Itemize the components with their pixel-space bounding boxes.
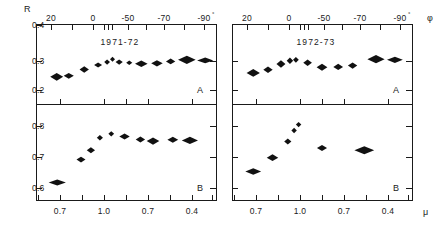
data-point-marker xyxy=(276,60,285,68)
data-point-marker xyxy=(64,73,74,79)
frame-left xyxy=(36,24,216,200)
data-point-marker xyxy=(303,60,312,66)
ticks-top-right xyxy=(247,24,400,30)
data-point-marker xyxy=(333,64,343,70)
data-point-marker xyxy=(104,60,110,65)
data-point-marker xyxy=(317,145,327,151)
data-point-marker xyxy=(136,136,145,142)
data-point-marker xyxy=(263,67,272,73)
data-point-marker xyxy=(126,60,132,64)
ticks-divider-right xyxy=(256,99,388,104)
data-point-marker xyxy=(119,133,129,139)
data-point-marker xyxy=(80,66,89,72)
frame-right xyxy=(232,24,412,200)
data-point-marker xyxy=(147,137,160,144)
data-markers-1972-73-A xyxy=(247,55,403,77)
data-markers-1972-73-B xyxy=(245,122,374,175)
data-point-marker xyxy=(166,59,175,65)
data-point-marker xyxy=(267,154,279,161)
data-point-marker xyxy=(287,58,293,64)
data-markers-1971-72-B xyxy=(49,131,198,185)
data-point-marker xyxy=(182,137,198,144)
data-point-marker xyxy=(284,138,291,144)
figure-container: R φ μ 20 0 -50 -70 -90 ° 20 0 -50 -70 -9… xyxy=(0,0,436,229)
data-point-marker xyxy=(387,57,403,63)
plot-canvas xyxy=(0,0,436,229)
ticks-y-left-column-right-spine xyxy=(210,61,216,188)
data-point-marker xyxy=(247,69,260,77)
data-point-marker xyxy=(108,131,114,136)
ticks-divider-left xyxy=(60,99,192,104)
data-point-marker xyxy=(367,55,384,63)
data-point-marker xyxy=(167,137,178,143)
data-point-marker xyxy=(291,128,296,133)
data-point-marker xyxy=(135,60,148,66)
ticks-top-left xyxy=(51,24,204,30)
data-point-marker xyxy=(245,168,261,175)
data-point-marker xyxy=(110,57,115,62)
data-point-marker xyxy=(296,122,301,127)
ticks-y-left-column xyxy=(36,25,42,188)
ticks-bottom-left xyxy=(38,195,212,200)
data-markers-1971-72-A xyxy=(50,56,213,81)
ticks-bottom-right xyxy=(234,195,408,200)
data-point-marker xyxy=(197,58,213,64)
data-point-marker xyxy=(178,56,196,64)
data-point-marker xyxy=(87,147,95,153)
data-point-marker xyxy=(348,62,357,68)
data-point-marker xyxy=(317,64,328,71)
data-point-marker xyxy=(151,60,163,66)
data-point-marker xyxy=(97,135,103,140)
data-point-marker xyxy=(49,179,66,185)
ticks-y-right-column-right-spine xyxy=(406,61,412,188)
data-point-marker xyxy=(116,60,123,65)
data-point-marker xyxy=(77,157,86,163)
ticks-y-right-column xyxy=(232,61,238,188)
data-point-marker xyxy=(50,73,63,81)
data-point-marker xyxy=(94,62,102,67)
data-point-marker xyxy=(293,57,299,63)
data-point-marker xyxy=(354,146,374,154)
